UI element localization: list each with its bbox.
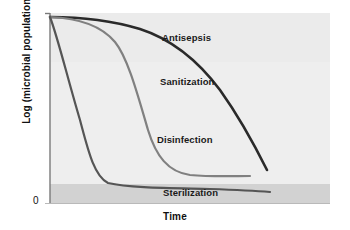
y-axis-tick-zero: 0	[33, 195, 39, 206]
annotation-disinfection: Disinfection	[157, 135, 213, 145]
y-axis-title: Log (microbial population)	[21, 0, 32, 140]
annotation-antisepsis: Antisepsis	[162, 33, 211, 43]
annotation-sterilization: Sterilization	[163, 188, 218, 198]
annotation-sanitization: Sanitization	[160, 77, 215, 87]
chart-figure: Antisepsis Sanitization Disinfection Ste…	[0, 0, 350, 230]
x-axis-title: Time	[0, 211, 350, 222]
